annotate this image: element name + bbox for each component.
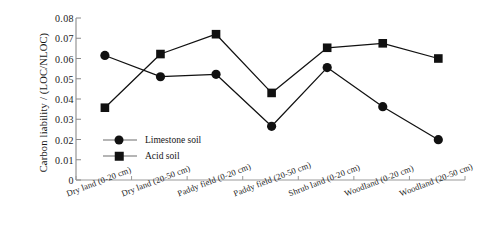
legend-item-limestone-soil: Limestone soil [103,132,201,148]
y-axis-tick-label: 0 [40,175,74,186]
legend-label-limestone-soil: Limestone soil [145,135,201,145]
y-axis-tick-label: 0.02 [40,134,74,145]
data-point-acid-soil-3 [267,89,276,98]
data-point-acid-soil-0 [101,103,110,112]
y-axis-tick-labels: 0.080.070.060.050.040.030.020.010 [36,0,74,244]
data-point-limestone-soil-2 [211,70,220,79]
data-point-acid-soil-2 [212,30,221,39]
legend-label-acid-soil: Acid soil [145,151,180,161]
y-axis-tick-label: 0.04 [40,94,74,105]
data-point-limestone-soil-6 [434,135,443,144]
y-axis-tick-label: 0.08 [40,13,74,24]
data-point-limestone-soil-3 [267,122,276,131]
data-point-limestone-soil-0 [100,51,109,60]
chart-legend: Limestone soil Acid soil [103,132,201,164]
y-axis-tick-label: 0.03 [40,114,74,125]
chart-figure: Carbon liability / (LOC/NLOC) 0.080.070.… [0,0,489,244]
data-point-acid-soil-4 [323,43,332,52]
y-axis-tick-label: 0.01 [40,154,74,165]
data-point-limestone-soil-4 [323,63,332,72]
y-axis-tick-label: 0.05 [40,73,74,84]
data-point-acid-soil-1 [156,50,165,59]
y-axis-tick-label: 0.07 [40,33,74,44]
data-point-acid-soil-5 [378,39,387,48]
legend-marker-square-icon [103,149,137,163]
data-point-acid-soil-6 [434,54,443,63]
legend-item-acid-soil: Acid soil [103,148,201,164]
data-point-limestone-soil-1 [156,72,165,81]
data-point-limestone-soil-5 [378,102,387,111]
y-axis-tick-label: 0.06 [40,53,74,64]
legend-marker-circle-icon [103,133,137,147]
